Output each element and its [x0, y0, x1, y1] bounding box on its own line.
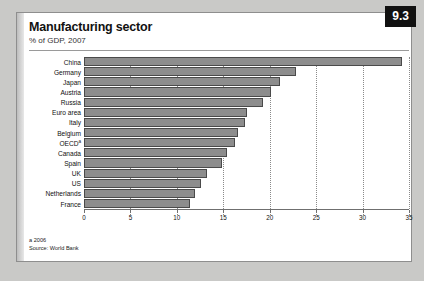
- bar-row: US: [84, 179, 409, 188]
- tick-label-15: 15: [220, 214, 227, 221]
- bar-row: France: [84, 199, 409, 208]
- chart-title: Manufacturing sector: [29, 20, 152, 34]
- tick-25: [316, 210, 317, 213]
- page-spine: [17, 13, 24, 261]
- tick-label-35: 35: [405, 214, 412, 221]
- category-label-oecd: OECDa: [59, 139, 81, 147]
- bar-row: Euro area: [84, 108, 409, 117]
- tick-label-10: 10: [173, 214, 180, 221]
- header-divider: [29, 50, 409, 51]
- tick-10: [177, 210, 178, 213]
- chart-plot-area: ChinaGermanyJapanAustriaRussiaEuro areaI…: [29, 57, 409, 225]
- bar-euro-area: [84, 108, 247, 117]
- bar-series: ChinaGermanyJapanAustriaRussiaEuro areaI…: [84, 57, 409, 209]
- bar-row: Canada: [84, 148, 409, 157]
- tick-label-5: 5: [129, 214, 133, 221]
- category-label-russia: Russia: [61, 99, 81, 106]
- bar-japan: [84, 77, 280, 86]
- category-label-italy: Italy: [69, 119, 81, 126]
- bar-austria: [84, 87, 271, 96]
- bar-oecd: [84, 138, 235, 147]
- bar-italy: [84, 118, 245, 127]
- bar-russia: [84, 98, 263, 107]
- tick-30: [363, 210, 364, 213]
- category-label-euro-area: Euro area: [52, 109, 81, 116]
- bar-canada: [84, 148, 227, 157]
- bar-row: Germany: [84, 67, 409, 76]
- x-axis-line: [84, 209, 409, 210]
- footnote-source: Source: World Bank: [29, 244, 79, 252]
- category-label-uk: UK: [72, 170, 81, 177]
- bar-france: [84, 199, 190, 208]
- tick-label-25: 25: [313, 214, 320, 221]
- category-label-belgium: Belgium: [57, 129, 81, 136]
- bar-germany: [84, 67, 296, 76]
- bar-china: [84, 57, 402, 66]
- category-label-netherlands: Netherlands: [45, 190, 81, 197]
- bar-uk: [84, 169, 207, 178]
- bar-spain: [84, 158, 222, 167]
- bar-row: Belgium: [84, 128, 409, 137]
- tick-label-30: 30: [359, 214, 366, 221]
- category-label-spain: Spain: [64, 159, 81, 166]
- footnote-marker: a: [78, 139, 81, 144]
- tick-5: [130, 210, 131, 213]
- bar-row: Spain: [84, 158, 409, 167]
- category-label-canada: Canada: [58, 149, 81, 156]
- chart-subtitle: % of GDP, 2007: [29, 36, 86, 45]
- category-label-japan: Japan: [63, 78, 81, 85]
- bar-row: UK: [84, 169, 409, 178]
- tick-35: [409, 210, 410, 213]
- screenshot-page: 9.3 Manufacturing sector % of GDP, 2007 …: [0, 0, 424, 281]
- tick-20: [270, 210, 271, 213]
- category-label-austria: Austria: [60, 88, 81, 95]
- chart-footnotes: a 2006 Source: World Bank: [29, 236, 79, 253]
- tick-label-20: 20: [266, 214, 273, 221]
- bar-row: China: [84, 57, 409, 66]
- bar-row: Italy: [84, 118, 409, 127]
- bar-us: [84, 179, 201, 188]
- bar-row: Austria: [84, 87, 409, 96]
- category-label-china: China: [64, 58, 81, 65]
- chart-number-badge: 9.3: [385, 6, 416, 27]
- category-label-germany: Germany: [54, 68, 81, 75]
- category-label-us: US: [72, 180, 81, 187]
- bar-belgium: [84, 128, 238, 137]
- footnote-note: a 2006: [29, 236, 79, 244]
- tick-0: [84, 210, 85, 213]
- category-label-france: France: [60, 200, 81, 207]
- gridline-35: [409, 57, 410, 215]
- tick-label-0: 0: [82, 214, 86, 221]
- bar-row: Russia: [84, 98, 409, 107]
- bar-row: Netherlands: [84, 189, 409, 198]
- bar-netherlands: [84, 189, 195, 198]
- bar-row: OECDa: [84, 138, 409, 147]
- bar-row: Japan: [84, 77, 409, 86]
- tick-15: [223, 210, 224, 213]
